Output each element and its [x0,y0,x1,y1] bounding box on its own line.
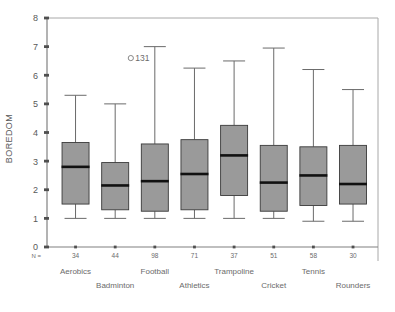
x-tick-count: 58 [310,252,318,259]
boxplot-group [180,68,208,218]
n-prefix-label: N = [31,253,41,259]
x-tick-count: 34 [72,252,80,259]
x-tick-count: 44 [112,252,120,259]
y-tick-label: 3 [33,157,38,167]
x-tick-count: 98 [151,252,159,259]
y-tick-mark [44,74,49,77]
y-tick-label: 5 [33,99,38,109]
box-iqr[interactable] [340,145,367,204]
y-tick-label: 7 [33,42,38,52]
box-iqr[interactable] [221,125,248,195]
boxplot-group [260,48,288,218]
x-tick-count: 37 [230,252,238,259]
x-tick-mark [193,246,196,249]
y-tick-label: 2 [33,185,38,195]
x-tick-mark [233,246,236,249]
x-category-label: Football [141,267,170,276]
y-tick-mark [44,17,49,20]
y-tick-label: 8 [33,13,38,23]
y-axis-title: BOREDOM [4,114,14,163]
box-iqr[interactable] [141,144,168,211]
x-category-label: Athletics [179,281,209,290]
x-category-label: Cricket [261,281,287,290]
y-tick-mark [44,45,49,48]
x-category-label: Trampoline [214,267,254,276]
x-tick-mark [153,246,156,249]
x-tick-count: 71 [191,252,199,259]
y-tick-label: 6 [33,71,38,81]
boxplot-group [62,95,90,218]
y-tick-mark [44,188,49,191]
plot-frame [47,18,378,261]
outlier-label: 131 [135,53,149,63]
x-tick-count: 30 [349,252,357,259]
boxplot-group [339,90,367,222]
y-tick-label: 1 [33,214,38,224]
x-tick-mark [352,246,355,249]
x-category-label: Tennis [302,267,325,276]
x-tick-mark [312,246,315,249]
x-tick-mark [114,246,117,249]
x-category-label: Badminton [96,281,134,290]
box-iqr[interactable] [260,145,287,211]
boxplot-group [299,70,327,222]
y-tick-mark [44,102,49,105]
y-tick-label: 4 [33,128,38,138]
x-tick-mark [272,246,275,249]
boxplot-group [220,61,248,218]
y-tick-mark [44,131,49,134]
boxplot-canvas: 012345678BOREDOM34Aerobics44Badminton98F… [0,0,395,312]
box-iqr[interactable] [62,143,89,205]
x-category-label: Aerobics [60,267,91,276]
y-tick-mark [44,246,49,249]
boxplot-group [101,104,129,219]
y-tick-label: 0 [33,242,38,252]
y-tick-mark [44,160,49,163]
y-tick-mark [44,217,49,220]
boxplot-figure: 012345678BOREDOM34Aerobics44Badminton98F… [0,0,395,312]
x-tick-mark [74,246,77,249]
outlier-marker-icon [128,55,133,60]
x-category-label: Rounders [336,281,371,290]
boxplot-group [141,47,169,219]
x-tick-count: 51 [270,252,278,259]
